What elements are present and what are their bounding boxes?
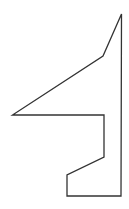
diagram-canvas <box>0 0 129 209</box>
polygon-shape <box>13 14 122 196</box>
diagram-svg <box>0 0 129 209</box>
